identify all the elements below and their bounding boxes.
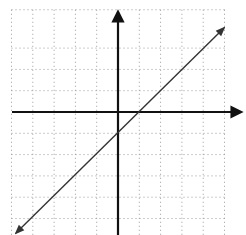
plotted-line	[16, 28, 224, 233]
coordinate-plane	[0, 0, 246, 235]
